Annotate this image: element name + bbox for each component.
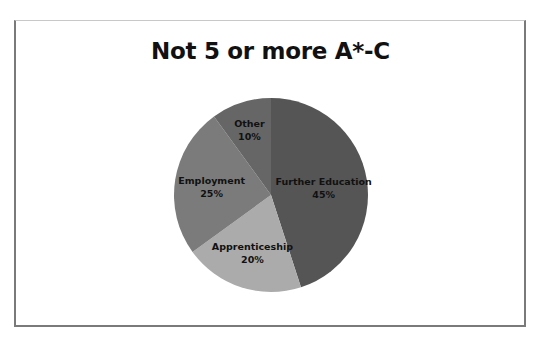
slice-label-percent: 20%: [241, 254, 264, 265]
slice-label-name: Further Education: [275, 176, 372, 187]
slice-label-name: Apprenticeship: [212, 241, 293, 252]
slice-label-percent: 45%: [312, 189, 335, 200]
slice-label-name: Other: [234, 118, 265, 129]
slice-label-percent: 25%: [200, 188, 223, 199]
slice-label-percent: 10%: [238, 131, 261, 142]
pie-chart: Further Education45%Apprenticeship20%Emp…: [0, 0, 541, 341]
slice-label-name: Employment: [178, 175, 245, 186]
